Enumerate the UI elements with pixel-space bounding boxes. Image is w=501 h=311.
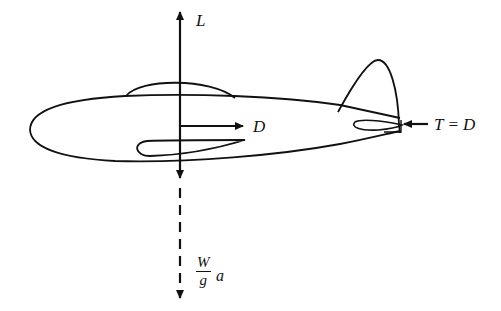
inertia-denominator: g	[196, 272, 211, 288]
wing	[137, 140, 245, 156]
thrust-label: T = D	[434, 116, 475, 133]
horizontal-stabilizer	[354, 120, 402, 130]
airplane-force-diagram: L D T = D W g a	[0, 0, 501, 311]
inertia-fraction: W g	[196, 255, 211, 288]
lift-label: L	[196, 12, 205, 29]
fuselage	[30, 95, 400, 161]
drag-label: D	[253, 118, 265, 135]
inertia-suffix: a	[216, 268, 224, 284]
inertia-numerator: W	[196, 255, 211, 272]
diagram-drawing	[0, 0, 501, 311]
